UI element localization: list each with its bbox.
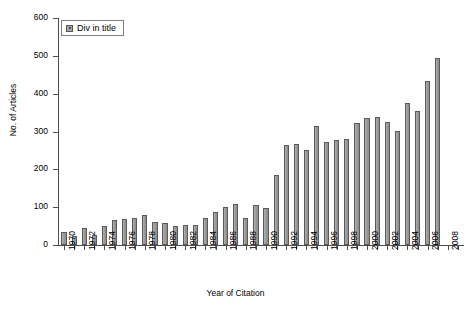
x-tick [84,246,85,250]
x-tick [286,246,287,250]
x-tick-label: 1980 [169,231,178,250]
bar [344,139,349,245]
y-tick [53,169,58,170]
x-axis-title: Year of Citation [0,288,471,298]
bar [364,118,369,245]
bar [395,131,400,245]
x-tick-label: 1978 [148,231,157,250]
x-tick [428,246,429,250]
bar [425,81,430,245]
x-tick-label: 2002 [391,231,400,250]
bar [435,58,440,245]
x-tick-label: 1992 [290,231,299,250]
bar [294,144,299,245]
x-tick-label: 1996 [330,231,339,250]
bar [314,126,319,245]
x-tick [327,246,328,250]
bar [375,117,380,245]
x-tick-label: 1982 [189,231,198,250]
legend-label: Div in title [77,23,116,33]
y-axis-title: No. of Articles [8,60,18,160]
x-tick-label: 1974 [108,231,117,250]
plot-area [59,18,463,245]
y-tick [53,56,58,57]
x-tick-label: 1988 [249,231,258,250]
x-tick-label: 2000 [371,231,380,250]
bar [263,208,268,245]
bar-chart: 0100200300400500600 No. of Articles 1970… [0,0,471,311]
x-tick [185,246,186,250]
x-tick-label: 1970 [68,231,77,250]
x-tick-label: 1986 [229,231,238,250]
x-tick [387,246,388,250]
x-tick-label: 1994 [310,231,319,250]
y-tick [53,94,58,95]
x-tick [226,246,227,250]
x-tick-label: 1972 [88,231,97,250]
x-tick [64,246,65,250]
x-tick [266,246,267,250]
x-tick [246,246,247,250]
y-tick-label: 500 [2,51,48,60]
legend-swatch-icon [66,25,73,32]
x-tick-label: 1984 [209,231,218,250]
bar [415,111,420,245]
x-tick [165,246,166,250]
x-tick-label: 1990 [270,231,279,250]
y-tick-label: 600 [2,13,48,22]
x-tick [205,246,206,250]
x-tick-label: 2004 [411,231,420,250]
x-tick [367,246,368,250]
y-tick-label: 0 [2,240,48,249]
bar [385,122,390,245]
y-tick [53,207,58,208]
chart-legend: Div in title [61,20,124,36]
y-tick [53,18,58,19]
x-tick [125,246,126,250]
y-tick-label: 200 [2,164,48,173]
bar [162,223,167,245]
x-tick-label: 1976 [128,231,137,250]
y-tick [53,132,58,133]
x-tick [448,246,449,250]
x-tick [407,246,408,250]
x-tick-label: 2006 [431,231,440,250]
bar [284,145,289,245]
x-tick [104,246,105,250]
x-tick [347,246,348,250]
bar [61,232,66,245]
x-tick [306,246,307,250]
x-tick [145,246,146,250]
bar [354,123,359,245]
x-axis-line [58,245,464,246]
bar [405,103,410,245]
x-tick-label: 1998 [350,231,359,250]
bar [324,142,329,245]
y-tick-label: 100 [2,202,48,211]
x-tick-label: 2008 [451,231,460,250]
bar [334,140,339,245]
